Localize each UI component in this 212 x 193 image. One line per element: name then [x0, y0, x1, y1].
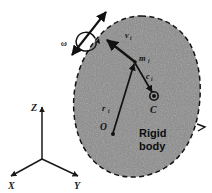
- rigid-body-shape: [74, 16, 205, 177]
- omega-label: ω: [61, 39, 67, 48]
- origin-point: [111, 132, 115, 136]
- particle-mass-label: m: [139, 53, 146, 63]
- omega-rotation-arc: [76, 32, 96, 51]
- origin-label: O: [100, 122, 107, 132]
- body-name-line2: body: [139, 140, 166, 152]
- y-axis-line: [42, 159, 78, 176]
- y-axis-label: Y: [74, 180, 81, 191]
- body-edge-nub: [197, 124, 205, 131]
- z-axis-label: Z: [30, 102, 37, 113]
- x-axis-line: [11, 159, 42, 176]
- x-axis-label: X: [7, 180, 15, 191]
- body-name-line1: Rigid: [139, 127, 167, 139]
- rigid-body-diagram-canvas: ω v i m i c i C r i O Rigid: [0, 0, 212, 193]
- c-vector-label: c: [146, 72, 150, 81]
- rigid-body-figure: ω v i m i c i C r i O Rigid: [0, 0, 212, 193]
- coordinate-frame: [11, 107, 78, 176]
- velocity-vector-label: v: [125, 31, 129, 40]
- center-of-mass-label: C: [150, 104, 157, 115]
